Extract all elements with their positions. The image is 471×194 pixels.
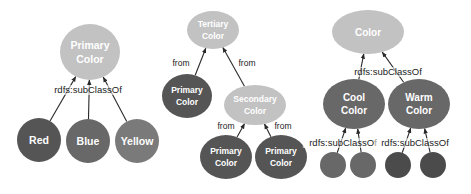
node-label: Yellow: [121, 135, 155, 147]
node-blue: Blue: [66, 119, 110, 163]
node-label: Primary: [171, 85, 203, 95]
node-label: Primary: [210, 146, 242, 156]
node-secondary: SecondaryColor: [224, 85, 286, 125]
edge-label-subclassof: rdfs:subClassOf: [309, 137, 377, 148]
node-label: Color: [244, 106, 267, 116]
node-shape: [420, 152, 446, 178]
node-label: Primary: [265, 146, 297, 156]
node-label: Color: [176, 97, 199, 107]
node-warm: WarmColor: [388, 79, 450, 129]
node-primary-c: PrimaryColor: [255, 135, 307, 179]
edge-label-from: from: [173, 58, 190, 68]
node-label: Tertiary: [198, 19, 229, 29]
node-label: Color: [76, 53, 103, 65]
edge-label-from: from: [239, 58, 256, 68]
diagram-tertiary-colors: TertiaryColorPrimaryColorSecondaryColorP…: [162, 11, 307, 179]
node-label: Warm: [405, 92, 433, 103]
edge-primary-c-to-secondary: [265, 124, 271, 137]
node-label: Color: [202, 31, 225, 41]
node-label: Blue: [77, 135, 100, 147]
node-label: Cool: [343, 92, 365, 103]
edge-label-subclassof: rdfs:subClassOf: [354, 66, 422, 77]
node-shape: [320, 152, 346, 178]
edge-label-from: from: [218, 121, 235, 131]
node-label: Secondary: [233, 94, 277, 104]
edge-label-from: from: [275, 121, 292, 131]
node-color: Color: [332, 10, 404, 54]
node-warm-1: [385, 152, 411, 178]
edge-label-subclassof: rdfs:subClassOf: [381, 137, 449, 148]
node-cool-1: [320, 152, 346, 178]
node-warm-2: [420, 152, 446, 178]
node-primary-b: PrimaryColor: [200, 135, 252, 179]
node-cool-2: [350, 152, 376, 178]
node-primary: PrimaryColor: [60, 24, 120, 80]
node-shape: [385, 152, 411, 178]
diagram-canvas: PrimaryColorRedBlueYellowTertiaryColorPr…: [0, 0, 471, 194]
node-shape: [388, 79, 450, 129]
edge-primary-b-to-secondary: [237, 124, 244, 137]
node-label: Primary: [70, 39, 109, 51]
diagram-color-temperature: ColorCoolColorWarmColor: [320, 10, 450, 178]
node-primary-a: PrimaryColor: [162, 74, 212, 118]
node-label: Color: [406, 105, 432, 116]
node-red: Red: [17, 118, 61, 162]
node-cool: CoolColor: [323, 79, 385, 129]
node-label: Color: [270, 158, 293, 168]
node-yellow: Yellow: [115, 119, 159, 163]
edge-label-subclassof: rdfs:subClassOf: [54, 84, 122, 95]
node-shape: [323, 79, 385, 129]
node-label: Color: [355, 27, 381, 38]
node-tertiary: TertiaryColor: [187, 11, 239, 49]
node-label: Color: [215, 158, 238, 168]
node-label: Color: [341, 105, 367, 116]
node-shape: [350, 152, 376, 178]
node-label: Red: [29, 134, 49, 146]
edge-primary-a-to-tertiary: [195, 48, 206, 75]
